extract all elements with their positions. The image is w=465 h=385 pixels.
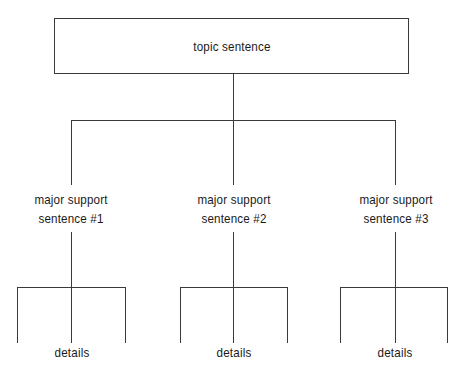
major-support-2: major support sentence #2: [174, 190, 294, 228]
major-support-3-line2: sentence #3: [336, 209, 456, 228]
paragraph-structure-diagram: topic sentence major support sentence #1…: [0, 0, 465, 385]
major-support-3-line1: major support: [336, 190, 456, 209]
major-support-3: major support sentence #3: [336, 190, 456, 228]
topic-sentence-box: topic sentence: [54, 18, 409, 74]
topic-sentence-label: topic sentence: [193, 39, 270, 54]
details-label-3: details: [361, 343, 430, 362]
details-label-2: details: [200, 343, 269, 362]
details-label-1: details: [38, 343, 107, 362]
major-support-2-line1: major support: [174, 190, 294, 209]
major-support-1-line2: sentence #1: [11, 209, 131, 228]
major-support-2-line2: sentence #2: [174, 209, 294, 228]
major-support-1-line1: major support: [11, 190, 131, 209]
major-support-1: major support sentence #1: [11, 190, 131, 228]
